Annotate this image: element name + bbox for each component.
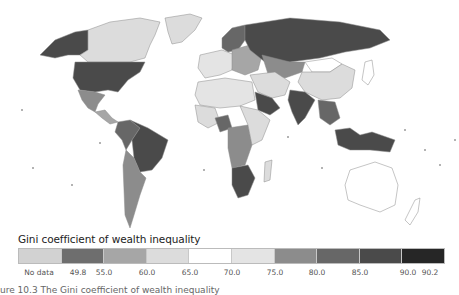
island-marker: [287, 136, 289, 138]
legend-swatch-75-80: [275, 249, 318, 263]
region-north-africa: [195, 78, 255, 108]
island-marker: [203, 169, 205, 171]
legend-tick-label: No data: [24, 268, 53, 277]
legend-swatch-80-85: [317, 249, 360, 263]
legend-swatch-no-data: [19, 249, 62, 263]
island-marker: [32, 167, 34, 169]
legend-color-bar: [18, 248, 445, 264]
legend-tick-label: 49.8: [70, 268, 87, 277]
legend-tick-label: 55.0: [96, 268, 113, 277]
legend-swatch-65-70: [189, 249, 232, 263]
legend-tick-label: 80.0: [309, 268, 326, 277]
region-west-africa: [195, 105, 220, 128]
world-choropleth-map: [0, 0, 459, 240]
legend-tick-label: 90.0: [400, 268, 417, 277]
island-marker: [71, 184, 73, 186]
legend-tick-label: 70.0: [224, 268, 241, 277]
figure-caption: ure 10.3 The Gini coefficient of wealth …: [0, 285, 220, 295]
legend-tick-label: 75.0: [267, 268, 284, 277]
legend-swatch-49-55: [62, 249, 105, 263]
region-southern-africa: [232, 165, 255, 198]
region-western-europe: [198, 50, 235, 78]
island-marker: [439, 164, 441, 166]
island-marker: [21, 109, 23, 111]
region-mexico: [78, 90, 105, 112]
legend-swatch-85-90: [360, 249, 403, 263]
island-marker: [321, 167, 323, 169]
region-new-zealand: [405, 198, 420, 225]
legend-swatch-55-60: [104, 249, 147, 263]
legend-tick-label: 60.0: [139, 268, 156, 277]
legend-title: Gini coefficient of wealth inequality: [18, 233, 200, 245]
region-australia: [345, 162, 398, 212]
region-canada: [80, 18, 160, 62]
region-united-states: [73, 62, 145, 92]
legend-tick-label: 90.2: [422, 268, 439, 277]
region-central-africa: [228, 125, 252, 168]
region-southeast-asia: [318, 100, 340, 125]
island-marker: [454, 139, 456, 141]
region-indonesia: [335, 128, 395, 152]
island-marker: [404, 129, 406, 131]
region-india: [288, 90, 315, 125]
legend-swatch-90-90-2: [402, 249, 444, 263]
region-madagascar: [264, 160, 272, 182]
legend-tick-label: 85.0: [352, 268, 369, 277]
region-central-america: [95, 110, 118, 124]
legend-swatch-70-75: [232, 249, 275, 263]
legend-swatch-60-65: [147, 249, 190, 263]
island-marker: [424, 149, 426, 151]
island-marker: [99, 142, 101, 144]
region-greenland: [165, 14, 202, 44]
region-japan: [362, 60, 374, 85]
legend-tick-labels: No data 49.8 55.0 60.0 65.0 70.0 75.0 80…: [0, 268, 459, 280]
region-russia: [245, 18, 390, 62]
region-alaska: [40, 30, 88, 58]
legend-tick-label: 65.0: [182, 268, 199, 277]
